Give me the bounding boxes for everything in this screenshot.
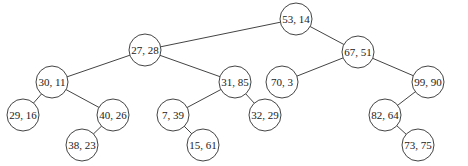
tree-node-label: 7, 39 bbox=[153, 107, 193, 123]
tree-node-label: 82, 64 bbox=[365, 107, 405, 123]
tree-node-label: 67, 51 bbox=[338, 44, 378, 60]
tree-node-label: 32, 29 bbox=[245, 107, 285, 123]
tree-node-label: 73, 75 bbox=[398, 137, 438, 153]
tree-node-label: 38, 23 bbox=[62, 137, 102, 153]
tree-node-label: 99, 90 bbox=[408, 74, 448, 90]
tree-node-label: 70, 3 bbox=[262, 74, 302, 90]
tree-node-label: 15, 61 bbox=[183, 137, 223, 153]
tree-node-label: 53, 14 bbox=[276, 11, 316, 27]
tree-node-label: 31, 85 bbox=[215, 74, 255, 90]
kd-tree-diagram: 53, 1427, 2867, 5130, 1131, 8570, 399, 9… bbox=[0, 0, 468, 166]
tree-edge bbox=[145, 19, 296, 50]
tree-node-label: 40, 26 bbox=[93, 107, 133, 123]
tree-node-label: 29, 16 bbox=[3, 107, 43, 123]
tree-node-label: 30, 11 bbox=[32, 74, 72, 90]
tree-node-label: 27, 28 bbox=[125, 42, 165, 58]
